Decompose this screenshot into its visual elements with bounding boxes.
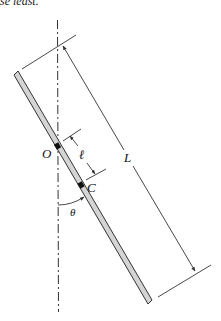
label-angle: θ (70, 206, 76, 218)
ell-extension-bottom (86, 169, 106, 180)
label-pivot: O (42, 146, 52, 161)
label-center-of-mass: C (87, 180, 96, 195)
l-extension-top (22, 35, 76, 69)
l-dimension-line-lower (133, 166, 195, 271)
pendulum-diagram: L ℓ O C θ (0, 0, 221, 321)
vertical-reference-line (58, 20, 59, 312)
ell-dimension-line-upper (70, 136, 78, 146)
rod (14, 71, 152, 304)
label-pivot-to-cm: ℓ (79, 147, 85, 162)
theta-arc (58, 197, 84, 205)
label-rod-length: L (123, 150, 131, 165)
l-extension-bottom (158, 265, 211, 297)
ell-dimension-line-lower (87, 163, 95, 174)
